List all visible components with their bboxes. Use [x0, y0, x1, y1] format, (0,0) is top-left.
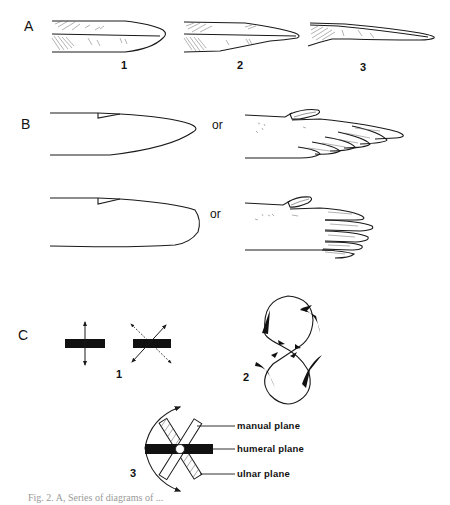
panel-label-c: C [18, 327, 28, 343]
figure-canvas: A 1 2 3 B or [0, 0, 450, 505]
feather-a2 [184, 22, 299, 52]
figure-eight-stroke-path [255, 296, 322, 404]
manual-plane-label: manual plane [237, 420, 300, 431]
wing-primaries-rounded [245, 197, 373, 258]
feather-a3-number: 3 [360, 61, 366, 73]
rotating-planes-diagram [145, 407, 235, 491]
figure-caption: Fig. 2. A, Series of diagrams of ... [28, 492, 163, 503]
feather-a3 [308, 23, 434, 46]
subfigure-c2-number: 2 [243, 371, 249, 383]
panel-label-b: B [21, 116, 30, 132]
subfigure-c1-number: 1 [116, 368, 122, 380]
wing-outline-rounded [50, 198, 199, 247]
feather-a2-number: 2 [237, 59, 243, 71]
or-connector-2: or [210, 207, 221, 221]
ulnar-plane-label: ulnar plane [237, 468, 290, 479]
or-connector-1: or [212, 118, 223, 132]
bar-crossed-arrows [131, 324, 171, 363]
wing-outline-pointed [50, 113, 196, 155]
feather-a1 [52, 21, 166, 52]
subfigure-c3-number: 3 [130, 467, 136, 479]
wing-primaries-pointed [245, 110, 403, 159]
panel-label-a: A [24, 18, 34, 34]
bar-vertical-arrow [65, 322, 105, 365]
humeral-plane-label: humeral plane [237, 443, 304, 454]
feather-a1-number: 1 [121, 59, 127, 71]
